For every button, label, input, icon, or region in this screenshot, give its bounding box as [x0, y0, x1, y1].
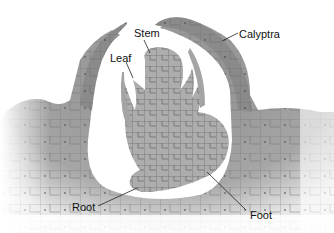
- embryo-illustration: [0, 0, 334, 233]
- label-calyptra: Calyptra: [239, 28, 280, 40]
- label-foot: Foot: [250, 209, 272, 221]
- label-leaf: Leaf: [110, 52, 131, 64]
- label-root: Root: [72, 201, 95, 213]
- label-stem: Stem: [134, 27, 160, 39]
- diagram-canvas: Stem Leaf Calyptra Root Foot: [0, 0, 334, 233]
